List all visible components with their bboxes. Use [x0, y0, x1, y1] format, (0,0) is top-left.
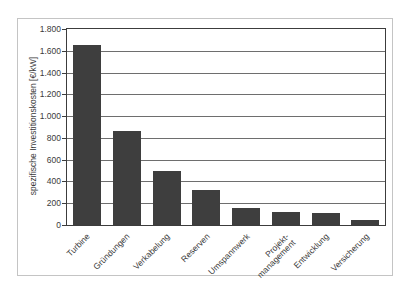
- y-tick-label: 1.800: [18, 24, 61, 34]
- y-tick-label: 1.000: [18, 111, 61, 121]
- bar-projekt-management: [272, 212, 300, 225]
- y-tick-mark: [62, 160, 66, 161]
- x-axis-label: Versicherung: [329, 232, 370, 273]
- x-axis-label: Projekt-management: [250, 232, 298, 280]
- y-tick-mark: [62, 138, 66, 139]
- bar-turbine: [73, 45, 101, 225]
- gridline: [67, 94, 385, 95]
- y-tick-label: 600: [18, 155, 61, 165]
- bar-verkabelung: [153, 171, 181, 225]
- y-axis-title: spezifische Investitionskosten [€/kW]: [27, 28, 39, 224]
- bar-versicherung: [351, 220, 379, 225]
- x-axis-label: Reserven: [180, 232, 212, 264]
- y-tick-label: 1.200: [18, 89, 61, 99]
- bar-reserven: [192, 190, 220, 225]
- x-axis-label: Entwicklung: [292, 232, 330, 270]
- y-tick-mark: [62, 94, 66, 95]
- y-tick-mark: [62, 51, 66, 52]
- y-tick-label: 1.400: [18, 68, 61, 78]
- y-tick-mark: [62, 225, 66, 226]
- y-tick-label: 0: [18, 220, 61, 230]
- y-tick-mark: [62, 73, 66, 74]
- y-tick-label: 400: [18, 176, 61, 186]
- x-axis-label: Umspannwerk: [207, 232, 252, 277]
- bar-entwicklung: [312, 213, 340, 225]
- x-axis-label: Turbine: [66, 232, 93, 259]
- y-tick-label: 1.600: [18, 46, 61, 56]
- gridline: [67, 116, 385, 117]
- gridline: [67, 51, 385, 52]
- bar-umspannwerk: [232, 208, 260, 225]
- gridline: [67, 73, 385, 74]
- y-tick-label: 800: [18, 133, 61, 143]
- x-axis-label: Gründungen: [92, 232, 132, 272]
- y-tick-label: 200: [18, 198, 61, 208]
- y-tick-mark: [62, 181, 66, 182]
- plot-area: [66, 28, 386, 226]
- y-tick-mark: [62, 29, 66, 30]
- chart-figure: spezifische Investitionskosten [€/kW] 02…: [17, 18, 393, 276]
- bar-gründungen: [113, 131, 141, 225]
- x-axis-label: Verkabelung: [132, 232, 172, 272]
- y-tick-mark: [62, 203, 66, 204]
- y-tick-mark: [62, 116, 66, 117]
